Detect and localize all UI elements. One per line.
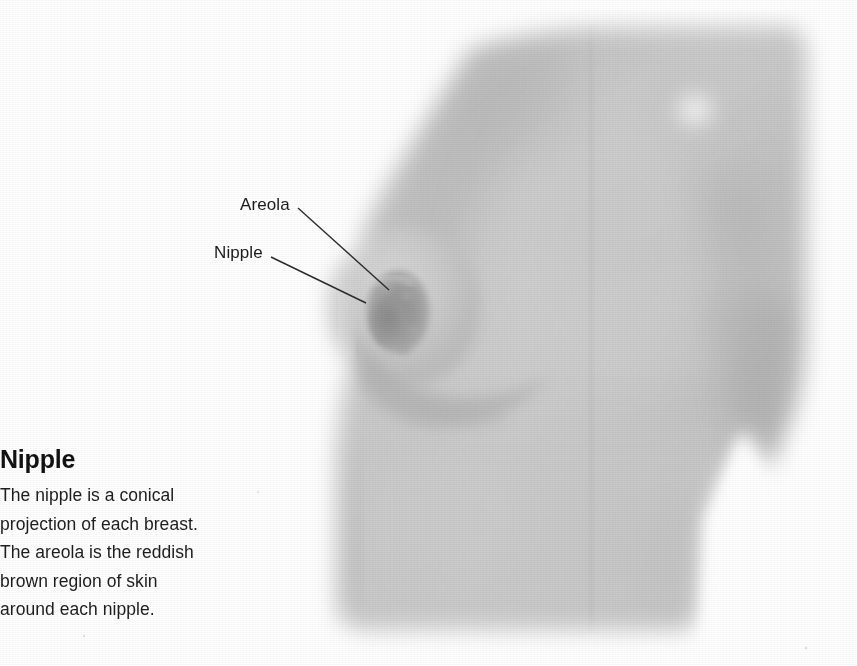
nipple-label: Nipple <box>214 243 263 263</box>
caption-line: The areola is the reddish <box>0 538 236 567</box>
caption-line: brown region of skin <box>0 567 236 596</box>
caption-block: Nipple The nipple is a conical projectio… <box>0 447 236 624</box>
areola-leader-line <box>298 208 389 290</box>
areola-label: Areola <box>240 195 290 215</box>
caption-body: The nipple is a conical projection of ea… <box>0 481 236 624</box>
nipple-leader-line <box>271 257 366 303</box>
caption-heading: Nipple <box>0 447 236 472</box>
anatomy-figure-page: Areola Nipple Nipple The nipple is a con… <box>0 0 857 666</box>
caption-line: around each nipple. <box>0 595 236 624</box>
caption-line: projection of each breast. <box>0 510 236 539</box>
caption-line: The nipple is a conical <box>0 481 236 510</box>
